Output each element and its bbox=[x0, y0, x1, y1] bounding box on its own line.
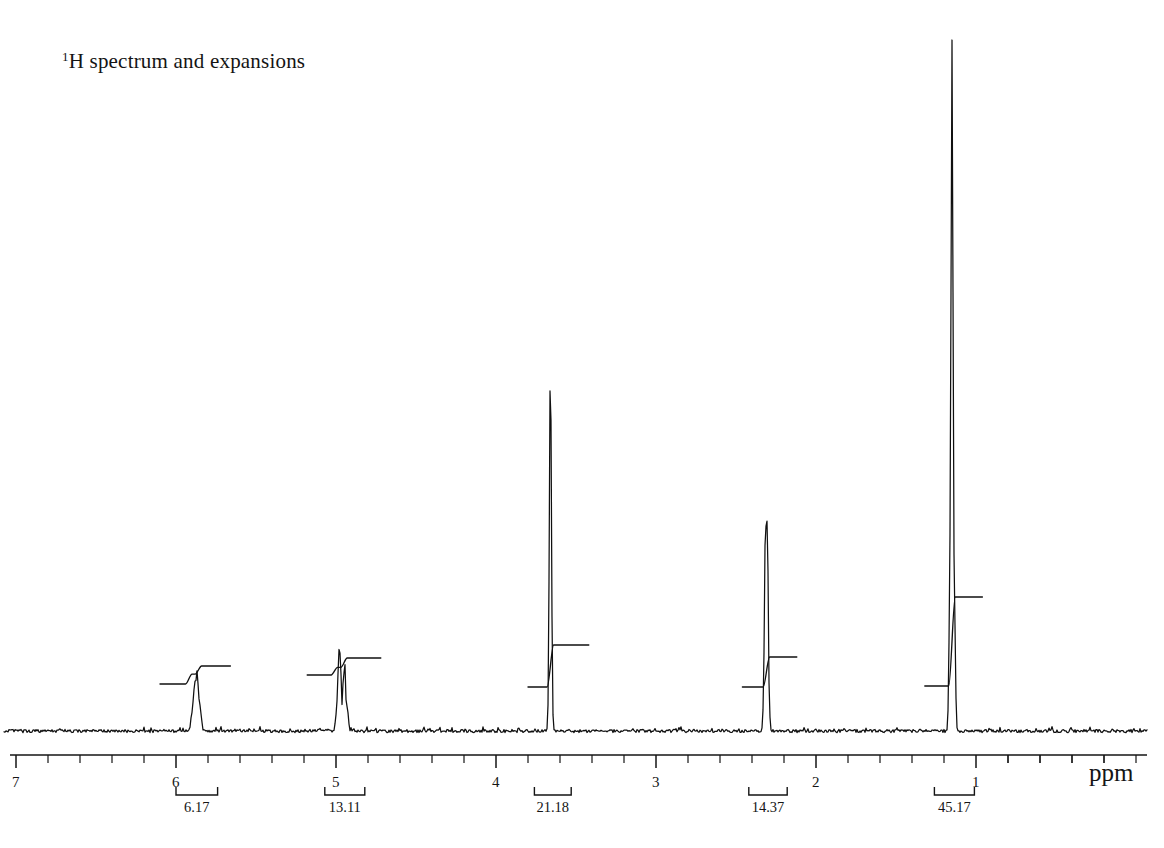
nmr-spectrum-plot: 7654321 6.1713.1121.1814.3745.17 ppm bbox=[0, 0, 1164, 848]
integral-curve-group bbox=[160, 597, 982, 687]
spectrum-page: 1H spectrum and expansions 7654321 6.171… bbox=[0, 0, 1164, 848]
axis-tick-label: 3 bbox=[652, 774, 660, 790]
axis-tick-label: 4 bbox=[492, 774, 500, 790]
integration-bracket bbox=[534, 787, 571, 795]
axis-tick-label: 5 bbox=[332, 774, 340, 790]
axis-tick-label: 1 bbox=[972, 774, 980, 790]
axis-unit-label: ppm bbox=[1089, 759, 1134, 786]
integration-value-label: 13.11 bbox=[329, 799, 361, 815]
axis-tick-label: 2 bbox=[812, 774, 820, 790]
integration-bracket-group: 6.1713.1121.1814.3745.17 bbox=[176, 787, 974, 815]
spectrum-svg: 7654321 6.1713.1121.1814.3745.17 ppm bbox=[0, 0, 1164, 848]
axis-tick-label: 7 bbox=[12, 774, 20, 790]
integration-value-label: 21.18 bbox=[536, 799, 569, 815]
spectrum-trace bbox=[4, 40, 1147, 733]
integration-bracket bbox=[325, 787, 365, 795]
integration-bracket bbox=[176, 787, 218, 795]
integral-curve bbox=[528, 645, 589, 687]
integration-bracket bbox=[934, 787, 974, 795]
integration-value-label: 45.17 bbox=[938, 799, 971, 815]
integration-value-label: 14.37 bbox=[752, 799, 785, 815]
integration-bracket bbox=[749, 787, 787, 795]
chemical-shift-axis: 7654321 bbox=[10, 755, 1147, 790]
integration-value-label: 6.17 bbox=[184, 799, 209, 815]
integral-curve bbox=[925, 597, 983, 686]
spectrum-trace-group bbox=[4, 40, 1147, 733]
